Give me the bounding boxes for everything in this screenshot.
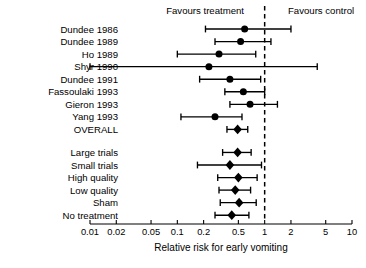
axis-tick-label: 0.01: [81, 227, 99, 237]
row-label: Large trials: [71, 147, 119, 158]
point-estimate-marker: [216, 51, 223, 58]
plot-rows: Dundee 1986Dundee 1989Ho 1989Shyr 1990Du…: [48, 24, 317, 221]
axis-tick-label: 0.1: [171, 227, 184, 237]
axis-tick-label: 10: [347, 227, 357, 237]
row-label: OVERALL: [74, 124, 119, 135]
row-label: Gieron 1993: [65, 99, 118, 110]
summary-diamond-marker: [227, 210, 236, 220]
point-estimate-marker: [237, 38, 244, 45]
axis-tick-label: 1: [262, 227, 267, 237]
summary-diamond-marker: [233, 125, 242, 135]
x-axis-title: Relative risk for early vomiting: [154, 242, 287, 253]
point-estimate-marker: [226, 76, 233, 83]
axis-tick-label: 0.02: [107, 227, 125, 237]
summary-diamond-marker: [235, 198, 244, 208]
forest-row: Dundee 1989: [60, 36, 271, 47]
point-estimate-marker: [247, 101, 254, 108]
forest-row: High quality: [68, 172, 257, 183]
row-label: Dundee 1991: [60, 74, 118, 85]
forest-row: Shyr 1990: [74, 61, 317, 72]
forest-row: Ho 1989: [82, 49, 256, 60]
forest-row: No treatment: [63, 210, 249, 221]
point-estimate-marker: [241, 26, 248, 33]
row-label: High quality: [68, 172, 118, 183]
forest-plot-canvas: Favours treatmentFavours control Dundee …: [0, 0, 366, 268]
row-label: Sham: [93, 197, 118, 208]
axis-tick-label: 0.2: [197, 227, 210, 237]
axis-tick-label: 0.05: [142, 227, 160, 237]
point-estimate-marker: [212, 113, 219, 120]
summary-diamond-marker: [226, 160, 235, 170]
axis-tick-label: 5: [323, 227, 328, 237]
favours-control-label: Favours control: [288, 5, 354, 16]
forest-row: Sham: [93, 197, 256, 208]
row-label: No treatment: [63, 210, 119, 221]
favours-treatment-label: Favours treatment: [166, 5, 244, 16]
row-label: Low quality: [70, 185, 118, 196]
point-estimate-marker: [205, 63, 212, 70]
forest-row: Dundee 1991: [60, 74, 260, 85]
forest-plot-figure: Favours treatmentFavours control Dundee …: [0, 0, 366, 268]
point-estimate-marker: [240, 88, 247, 95]
row-label: Small trials: [71, 160, 118, 171]
row-label: Fassoulaki 1993: [48, 86, 118, 97]
axis-tick-label: 0.5: [232, 227, 245, 237]
forest-row: Large trials: [71, 147, 252, 158]
forest-row: Low quality: [70, 185, 251, 196]
row-label: Yang 1993: [72, 111, 118, 122]
summary-diamond-marker: [234, 173, 243, 183]
forest-row: Dundee 1986: [60, 24, 291, 35]
forest-row: Gieron 1993: [65, 99, 277, 110]
forest-row: OVERALL: [74, 124, 248, 135]
axis-tick-label: 2: [288, 227, 293, 237]
summary-diamond-marker: [231, 185, 240, 195]
plot-headers: Favours treatmentFavours control: [166, 5, 354, 16]
row-label: Ho 1989: [82, 49, 118, 60]
row-label: Dundee 1986: [60, 24, 118, 35]
x-axis: 0.010.020.050.10.20.512510Relative risk …: [81, 220, 357, 253]
forest-row: Yang 1993: [72, 111, 242, 122]
forest-row: Fassoulaki 1993: [48, 86, 265, 97]
forest-row: Small trials: [71, 160, 261, 171]
summary-diamond-marker: [233, 148, 242, 158]
row-label: Dundee 1989: [60, 36, 118, 47]
